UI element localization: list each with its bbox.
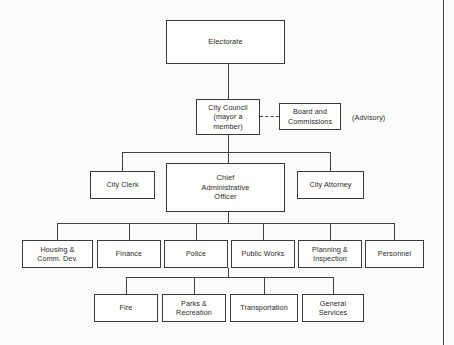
connector-drop-transportation bbox=[264, 277, 265, 294]
connector-drop-housing bbox=[57, 223, 58, 240]
connector-drop-fire bbox=[126, 277, 127, 294]
node-transportation[interactable]: Transportation bbox=[230, 294, 298, 322]
node-label: Parks & Recreation bbox=[174, 299, 214, 318]
node-board-and-commissions[interactable]: Board and Commissions bbox=[279, 103, 341, 130]
node-label: Planning & Inspection bbox=[310, 245, 350, 264]
node-label: Board and Commissions bbox=[286, 107, 334, 126]
connector-bus-departments bbox=[57, 223, 395, 224]
node-label: Housing & Comm. Dev. bbox=[35, 245, 79, 264]
org-chart-page: Electorate City Council (mayor a member)… bbox=[0, 0, 454, 345]
node-general-services[interactable]: General Services bbox=[302, 294, 364, 322]
node-public-works[interactable]: Public Works bbox=[231, 240, 295, 268]
connector-drop-general-services bbox=[333, 277, 334, 294]
node-label: City Clerk bbox=[104, 180, 140, 190]
node-chief-administrative-officer[interactable]: Chief Administrative Officer bbox=[166, 163, 285, 212]
node-label: Transportation bbox=[238, 303, 289, 313]
node-electorate[interactable]: Electorate bbox=[166, 20, 285, 64]
connector-drop-police bbox=[196, 223, 197, 240]
node-label: General Services bbox=[317, 299, 349, 318]
node-personnel[interactable]: Personnel bbox=[365, 240, 424, 268]
connector-council-stem bbox=[228, 135, 229, 152]
node-label: Public Works bbox=[239, 249, 286, 259]
node-label: Personnel bbox=[376, 249, 413, 259]
node-label: Finance bbox=[114, 249, 144, 259]
connector-cao-lower-stem bbox=[228, 268, 229, 277]
node-label: City Attorney bbox=[307, 180, 353, 190]
connector-electorate-to-council bbox=[228, 64, 229, 99]
node-label: Fire bbox=[118, 303, 135, 313]
node-parks-recreation[interactable]: Parks & Recreation bbox=[162, 294, 226, 322]
connector-drop-city-attorney bbox=[330, 152, 331, 171]
connector-bus-level2 bbox=[122, 152, 331, 153]
node-planning-inspection[interactable]: Planning & Inspection bbox=[298, 240, 362, 268]
connector-drop-public-works bbox=[263, 223, 264, 240]
node-city-clerk[interactable]: City Clerk bbox=[90, 171, 155, 199]
node-fire[interactable]: Fire bbox=[94, 294, 158, 322]
connector-drop-city-clerk bbox=[122, 152, 123, 171]
connector-drop-planning bbox=[330, 223, 331, 240]
node-label: Police bbox=[184, 249, 208, 259]
connector-cao-stem bbox=[228, 212, 229, 223]
node-label: Chief Administrative Officer bbox=[200, 173, 252, 202]
node-label: Electorate bbox=[206, 37, 244, 47]
node-police[interactable]: Police bbox=[164, 240, 228, 268]
node-housing-comm-dev[interactable]: Housing & Comm. Dev. bbox=[22, 240, 93, 268]
connector-drop-cao bbox=[228, 152, 229, 163]
connector-council-to-board-dashed bbox=[260, 116, 279, 117]
connector-drop-finance bbox=[129, 223, 130, 240]
page-border-rule bbox=[443, 0, 444, 345]
node-city-attorney[interactable]: City Attorney bbox=[297, 171, 364, 199]
connector-drop-parks bbox=[194, 277, 195, 294]
node-label: City Council (mayor a member) bbox=[206, 103, 250, 132]
node-city-council[interactable]: City Council (mayor a member) bbox=[196, 99, 260, 135]
advisory-note: (Advisory) bbox=[352, 113, 385, 122]
node-finance[interactable]: Finance bbox=[97, 240, 161, 268]
connector-bus-bottom bbox=[126, 277, 333, 278]
connector-drop-personnel bbox=[394, 223, 395, 240]
